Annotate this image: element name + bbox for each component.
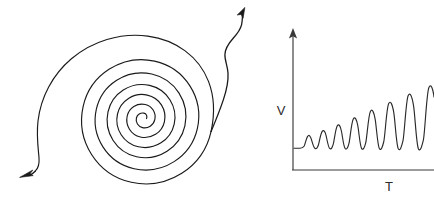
- y-axis-label: V: [277, 103, 286, 118]
- x-axis-label: T: [385, 179, 393, 194]
- oscillation-waveform: [294, 86, 434, 150]
- spiral-start-arrow: [20, 170, 34, 177]
- plot-panel: V T: [277, 28, 434, 194]
- figure-root: V T: [0, 0, 434, 210]
- spiral-curve: [82, 60, 211, 184]
- spiral-end-tail: [211, 11, 243, 131]
- spiral-end-arrow: [237, 7, 245, 18]
- spiral-panel: [20, 7, 245, 183]
- figure-canvas: V T: [0, 0, 434, 210]
